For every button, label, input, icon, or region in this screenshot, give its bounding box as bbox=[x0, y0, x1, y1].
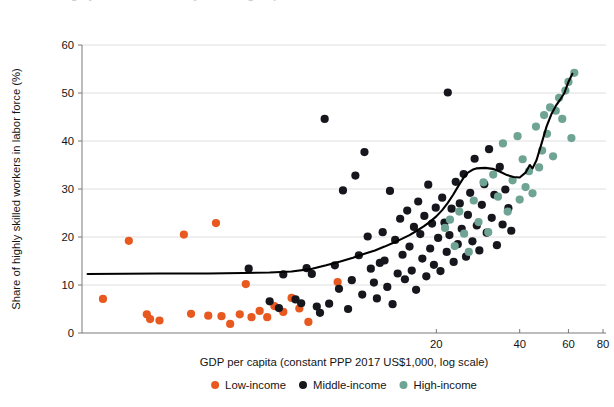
y-tick-label-30: 30 bbox=[61, 183, 74, 195]
data-point bbox=[325, 300, 333, 308]
data-point bbox=[412, 286, 420, 294]
data-point bbox=[535, 163, 543, 171]
data-point bbox=[540, 111, 548, 119]
data-point bbox=[422, 272, 430, 280]
data-point bbox=[373, 294, 381, 302]
data-point bbox=[474, 218, 482, 226]
clipped-figure-title: ● Share of highly skilled workers by inc… bbox=[0, 0, 614, 3]
data-point bbox=[460, 230, 468, 238]
data-point bbox=[187, 310, 195, 318]
data-point bbox=[470, 196, 478, 204]
data-point bbox=[451, 242, 459, 250]
data-point bbox=[379, 228, 387, 236]
data-point bbox=[125, 237, 133, 245]
scatter-plot: 0102030405060 20406080 GDP per capita (c… bbox=[0, 0, 614, 407]
data-point bbox=[316, 309, 324, 317]
data-point bbox=[339, 186, 347, 194]
data-point bbox=[443, 248, 451, 256]
data-point bbox=[493, 241, 501, 249]
y-tick-label-20: 20 bbox=[61, 231, 74, 243]
data-point bbox=[401, 275, 409, 283]
y-tick-label-40: 40 bbox=[61, 135, 74, 147]
chart-figure: ● Share of highly skilled workers by inc… bbox=[0, 0, 614, 407]
data-point bbox=[297, 299, 305, 307]
data-point bbox=[245, 265, 253, 273]
data-point bbox=[275, 304, 283, 312]
y-axis-title: Share of highly skilled workers in labor… bbox=[10, 68, 22, 310]
data-point bbox=[464, 211, 472, 219]
data-point bbox=[434, 234, 442, 242]
data-point bbox=[436, 267, 444, 275]
data-point bbox=[420, 212, 428, 220]
data-point bbox=[441, 224, 449, 232]
data-point bbox=[488, 214, 496, 222]
data-point bbox=[519, 155, 527, 163]
data-point bbox=[478, 201, 486, 209]
data-point bbox=[394, 269, 402, 277]
data-point bbox=[438, 194, 446, 202]
data-point bbox=[351, 171, 359, 179]
legend-marker-high-income bbox=[399, 381, 407, 389]
data-point bbox=[99, 295, 107, 303]
data-point bbox=[370, 279, 378, 287]
gridlines bbox=[82, 45, 606, 285]
x-tick-label-40: 40 bbox=[513, 338, 526, 350]
data-point bbox=[432, 204, 440, 212]
y-axis: 0102030405060 bbox=[61, 39, 82, 339]
data-point bbox=[468, 237, 476, 245]
data-point bbox=[380, 256, 388, 264]
x-tick-label-80: 80 bbox=[597, 338, 610, 350]
data-point bbox=[266, 297, 274, 305]
data-point bbox=[388, 300, 396, 308]
data-point bbox=[396, 215, 404, 223]
data-point bbox=[484, 228, 492, 236]
x-axis-title: GDP per capita (constant PPP 2017 US$1,0… bbox=[200, 356, 489, 368]
data-points bbox=[99, 69, 579, 328]
data-point bbox=[146, 315, 154, 323]
legend-label-low-income: Low-income bbox=[225, 379, 286, 391]
data-point bbox=[348, 276, 356, 284]
data-point bbox=[456, 199, 464, 207]
data-point bbox=[408, 267, 416, 275]
data-point bbox=[155, 316, 163, 324]
legend-item-middle-income[interactable]: Middle-income bbox=[299, 379, 386, 391]
x-axis: 20406080 bbox=[82, 329, 609, 350]
data-point bbox=[504, 207, 512, 215]
data-point bbox=[465, 248, 473, 256]
legend-marker-middle-income bbox=[299, 381, 307, 389]
data-point bbox=[489, 171, 497, 179]
data-point bbox=[335, 285, 343, 293]
legend-label-high-income: High-income bbox=[413, 379, 476, 391]
data-point bbox=[242, 280, 250, 288]
data-point bbox=[304, 318, 312, 326]
data-point bbox=[528, 189, 536, 197]
data-point bbox=[445, 231, 453, 239]
data-point bbox=[308, 270, 316, 278]
data-point bbox=[499, 139, 507, 147]
legend-item-high-income[interactable]: High-income bbox=[399, 379, 476, 391]
data-point bbox=[567, 134, 575, 142]
data-point bbox=[485, 145, 493, 153]
data-point bbox=[521, 183, 529, 191]
legend-label-middle-income: Middle-income bbox=[313, 379, 386, 391]
y-tick-label-0: 0 bbox=[68, 327, 74, 339]
y-tick-label-60: 60 bbox=[61, 39, 74, 51]
data-point bbox=[501, 185, 509, 193]
data-point bbox=[499, 220, 507, 228]
data-point bbox=[180, 231, 188, 239]
data-point bbox=[513, 132, 521, 140]
y-tick-label-10: 10 bbox=[61, 279, 74, 291]
legend: Low-incomeMiddle-incomeHigh-income bbox=[211, 379, 477, 391]
legend-item-low-income[interactable]: Low-income bbox=[211, 379, 286, 391]
data-point bbox=[479, 178, 487, 186]
data-point bbox=[263, 313, 271, 321]
data-point bbox=[403, 207, 411, 215]
data-point bbox=[558, 115, 566, 123]
data-point bbox=[532, 123, 540, 131]
data-point bbox=[475, 246, 483, 254]
data-point bbox=[217, 312, 225, 320]
data-point bbox=[367, 265, 375, 273]
data-point bbox=[430, 261, 438, 269]
data-point bbox=[364, 232, 372, 240]
data-point bbox=[516, 195, 524, 203]
